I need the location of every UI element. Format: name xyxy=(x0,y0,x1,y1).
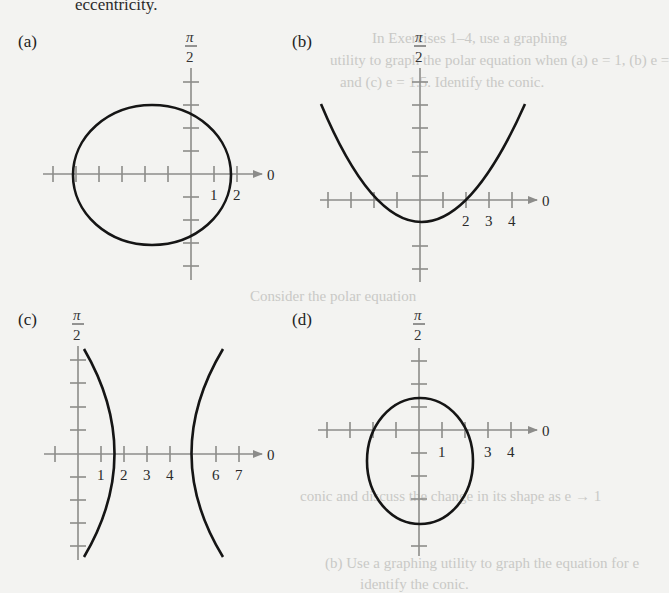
tick-label-3: 3 xyxy=(143,467,151,483)
panel-b: (b) π 2 2 3 4 0 xyxy=(292,29,550,282)
tick-label-3: 3 xyxy=(484,444,492,460)
tick-label-4: 4 xyxy=(507,444,515,460)
angle-label-pi-over-2: π 2 xyxy=(413,307,425,343)
panel-c: (c) π 2 1 2 3 4 xyxy=(18,307,275,560)
angle-label-pi-over-2: π 2 xyxy=(414,29,426,65)
svg-text:2: 2 xyxy=(415,49,423,65)
zero-angle-label: 0 xyxy=(542,423,550,439)
tick-label-1: 1 xyxy=(438,444,446,460)
hyperbola-right-branch xyxy=(192,349,224,557)
ellipse-curve xyxy=(367,398,473,524)
top-fragment-text: eccentricity. xyxy=(75,0,157,14)
tick-label-6: 6 xyxy=(212,467,220,483)
svg-text:2: 2 xyxy=(186,49,194,65)
angle-label-pi-over-2: π 2 xyxy=(185,29,197,65)
hyperbola-left-branch xyxy=(84,349,115,557)
tick-label-1: 1 xyxy=(210,187,218,203)
tick-label-3: 3 xyxy=(485,213,493,229)
panel-d: (d) π 2 1 3 4 0 xyxy=(292,307,550,556)
angle-label-pi-over-2: π 2 xyxy=(72,307,84,343)
panel-d-label: (d) xyxy=(292,310,312,329)
tick-label-2: 2 xyxy=(462,213,470,229)
panel-b-label: (b) xyxy=(292,32,312,51)
panel-c-label: (c) xyxy=(18,310,37,329)
zero-angle-label: 0 xyxy=(542,193,550,209)
zero-angle-label: 0 xyxy=(267,167,275,183)
svg-text:2: 2 xyxy=(73,327,81,343)
tick-label-4: 4 xyxy=(508,213,516,229)
svg-text:π: π xyxy=(73,307,81,323)
tick-label-2: 2 xyxy=(120,467,128,483)
zero-angle-label: 0 xyxy=(267,447,275,463)
tick-label-2: 2 xyxy=(233,187,241,203)
svg-text:π: π xyxy=(414,307,422,323)
panel-a: (a) π 2 1 2 0 xyxy=(18,29,275,280)
ellipse-curve xyxy=(73,105,231,245)
tick-label-7: 7 xyxy=(235,467,243,483)
svg-text:2: 2 xyxy=(414,327,422,343)
tick-label-4: 4 xyxy=(166,467,174,483)
svg-text:π: π xyxy=(415,29,423,45)
panel-a-label: (a) xyxy=(18,32,37,51)
tick-label-1: 1 xyxy=(97,467,105,483)
svg-text:π: π xyxy=(186,29,194,45)
